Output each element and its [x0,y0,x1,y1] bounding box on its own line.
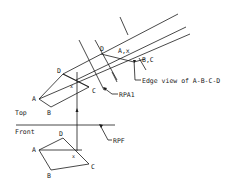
top-label-A: A [32,95,36,103]
auxiliary-edge-view [101,54,145,62]
front-view-shape [39,138,89,170]
front-label-x: x [72,153,75,159]
top-label-x: x [70,83,73,89]
front-view-label: Front [15,128,35,136]
descriptive-geometry-drawing: A B C D x D A,x B,C Edge view of A-B-C-D… [0,0,236,187]
top-label-B: B [47,109,51,117]
top-label-D: D [57,67,61,75]
reference-lines [79,17,146,90]
projection-lines [39,14,190,99]
front-label-D: D [59,130,63,138]
top-label-C: C [92,87,96,95]
edge-view-label: Edge view of A-B-C-D [142,77,220,85]
aux-label-Ax: A,x [118,47,130,55]
aux-label-D: D [100,45,104,53]
front-label-C: C [91,163,95,171]
arrowhead-up [76,108,79,112]
leader-lines [99,60,141,140]
aux-label-BC: B,C [142,56,154,64]
rpa1-label: RPA1 [119,91,135,99]
front-label-A: A [32,146,36,154]
top-view-label: Top [15,109,27,117]
rpf-label: RPF [113,137,125,145]
front-label-B: B [47,172,51,180]
top-view-shape [39,74,89,107]
